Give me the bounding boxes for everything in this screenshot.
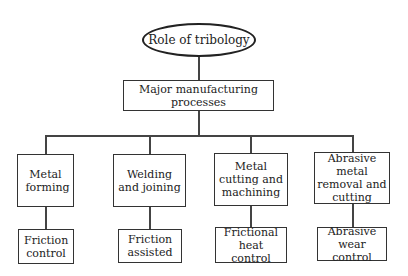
role-label: Abrasive wear control	[320, 225, 384, 264]
process-label: Metal cutting and machining	[219, 160, 283, 199]
connector-bus-to-process-2	[149, 135, 151, 154]
node-process-metal-cutting: Metal cutting and machining	[214, 153, 288, 206]
connector-process-2-to-role	[149, 207, 151, 229]
connector-bus-to-process-1	[45, 135, 47, 154]
major-node-label: Major manufacturing processes	[126, 83, 271, 109]
process-label: Metal forming	[26, 168, 66, 194]
connector-bus-to-process-4	[352, 135, 354, 152]
process-label: Abrasive metal removal and cutting	[317, 152, 387, 204]
node-role-abrasive-wear-control: Abrasive wear control	[317, 227, 387, 261]
node-process-welding-joining: Welding and joining	[113, 154, 186, 207]
node-role-frictional-heat-control: Frictional heat control	[215, 227, 287, 263]
root-node-label: Role of tribology	[148, 34, 249, 47]
connector-bus	[45, 135, 354, 137]
connector-process-3-to-role	[250, 206, 252, 227]
connector-process-1-to-role	[45, 207, 47, 229]
connector-bus-to-process-3	[250, 135, 252, 153]
node-major-manufacturing-processes: Major manufacturing processes	[123, 80, 274, 111]
connector-major-to-bus	[198, 111, 200, 136]
node-role-friction-assisted: Friction assisted	[118, 229, 182, 263]
root-node-role-of-tribology: Role of tribology	[142, 23, 256, 57]
role-label: Friction assisted	[125, 233, 175, 259]
node-role-friction-control: Friction control	[18, 229, 74, 264]
connector-root-to-major	[198, 56, 200, 80]
role-label: Frictional heat control	[218, 226, 284, 265]
process-label: Welding and joining	[118, 168, 182, 194]
node-process-metal-forming: Metal forming	[17, 154, 74, 207]
role-label: Friction control	[24, 234, 68, 260]
node-process-abrasive-removal: Abrasive metal removal and cutting	[314, 152, 390, 204]
